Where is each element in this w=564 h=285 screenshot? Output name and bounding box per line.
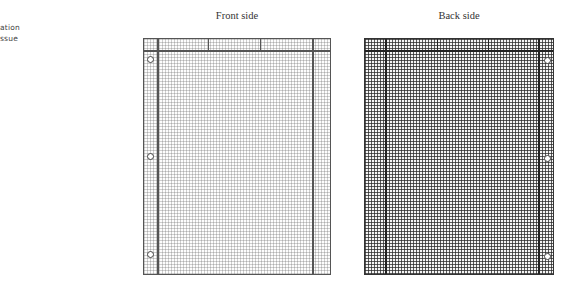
front-side-caption: Front side bbox=[167, 10, 307, 21]
punch-hole-icon bbox=[147, 56, 154, 63]
punch-hole-icon bbox=[147, 153, 154, 160]
left-margin-line bbox=[157, 39, 159, 274]
front-side-sheet bbox=[143, 38, 331, 275]
header-divider bbox=[260, 39, 261, 50]
right-margin-line bbox=[538, 39, 540, 274]
punch-hole-icon bbox=[544, 253, 551, 260]
punch-hole-icon bbox=[544, 57, 551, 64]
left-margin-line bbox=[385, 39, 387, 274]
header-divider bbox=[437, 39, 438, 50]
header-rule bbox=[144, 50, 330, 52]
header-divider bbox=[208, 39, 209, 50]
punch-hole-icon bbox=[147, 251, 154, 258]
back-side-sheet bbox=[364, 38, 554, 275]
back-side-caption: Back side bbox=[389, 10, 529, 21]
header-rule bbox=[365, 50, 553, 52]
header-divider bbox=[488, 39, 489, 50]
side-note-line-2: ssue bbox=[0, 33, 20, 44]
punch-hole-icon bbox=[544, 155, 551, 162]
right-margin-line bbox=[312, 39, 314, 274]
side-note: ation ssue bbox=[0, 22, 20, 44]
side-note-line-1: ation bbox=[0, 22, 20, 33]
